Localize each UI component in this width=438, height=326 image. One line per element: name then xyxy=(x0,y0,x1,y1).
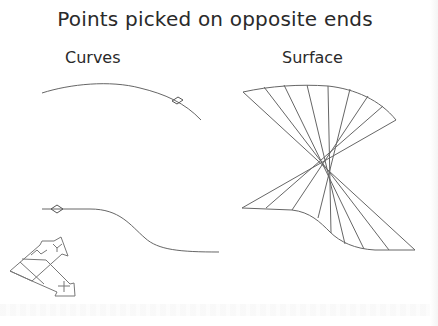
surface-rulings xyxy=(242,85,415,250)
top-curve-pick-marker xyxy=(172,97,183,104)
bottom-bleed-artifact xyxy=(0,304,430,316)
top-curve xyxy=(42,84,201,120)
surface-bottom-edge xyxy=(242,208,415,250)
right-edge-strip xyxy=(430,0,438,326)
diagram-canvas xyxy=(0,0,438,326)
axis-triad-icon xyxy=(10,237,75,296)
bottom-curve xyxy=(42,209,219,252)
